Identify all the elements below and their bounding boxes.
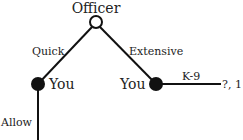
officer-node [90, 16, 102, 28]
quick-label: Quick [32, 45, 65, 58]
k9-label: K-9 [182, 70, 200, 83]
you-node-left [31, 77, 45, 91]
extensive-label: Extensive [129, 45, 183, 58]
game-tree: Officer Quick Extensive You You K-9 ?, 1… [0, 0, 243, 140]
you-label-right: You [119, 76, 145, 92]
allow-label: Allow [0, 116, 33, 129]
you-label-left: You [48, 76, 74, 92]
officer-label: Officer [72, 0, 121, 16]
you-node-right [149, 77, 163, 91]
k9-payoff: ?, 1 [222, 78, 242, 91]
